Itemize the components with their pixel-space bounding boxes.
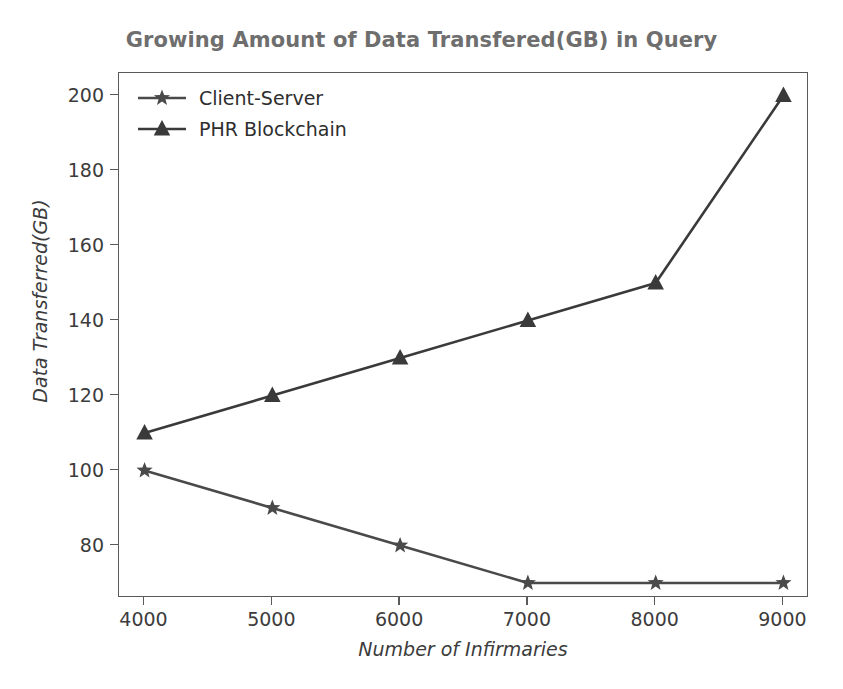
y-tick-label: 120	[44, 384, 104, 406]
legend-label: Client-Server	[188, 87, 323, 109]
data-point-marker-star	[775, 575, 791, 590]
data-point-marker-star	[264, 500, 280, 515]
legend-item-1[interactable]: Client-Server	[136, 82, 386, 113]
series-1	[136, 462, 791, 590]
data-point-marker-triangle	[775, 87, 792, 102]
x-tick-label: 7000	[482, 608, 572, 630]
y-tick-label: 160	[44, 234, 104, 256]
y-tick-label: 80	[44, 534, 104, 556]
x-axis-tick-labels: 400050006000700080009000	[118, 600, 808, 634]
y-tick-mark	[110, 319, 118, 321]
plot-area	[118, 72, 808, 597]
plot-svg	[119, 73, 809, 598]
y-axis-tick-labels: 80100120140160180200	[36, 72, 104, 597]
y-tick-mark	[110, 544, 118, 546]
y-tick-label: 140	[44, 309, 104, 331]
chart-figure: Growing Amount of Data Transfered(GB) in…	[0, 0, 843, 689]
y-tick-mark	[110, 394, 118, 396]
legend-triangle-icon	[136, 119, 188, 139]
y-tick-mark	[110, 169, 118, 171]
data-point-marker-star	[136, 462, 152, 477]
x-axis-label: Number of Infirmaries	[118, 638, 808, 660]
data-point-marker-star	[648, 575, 664, 590]
x-tick-label: 9000	[737, 608, 827, 630]
y-tick-mark	[110, 94, 118, 96]
x-tick-label: 5000	[226, 608, 316, 630]
x-tick-label: 8000	[610, 608, 700, 630]
series-line	[145, 471, 784, 584]
data-point-marker-star	[154, 89, 170, 104]
legend-item-2[interactable]: PHR Blockchain	[136, 113, 386, 144]
data-point-marker-star	[520, 575, 536, 590]
legend-star-icon	[136, 88, 188, 108]
y-tick-mark	[110, 469, 118, 471]
y-tick-label: 180	[44, 159, 104, 181]
legend-label: PHR Blockchain	[188, 118, 347, 140]
x-tick-label: 6000	[354, 608, 444, 630]
y-tick-mark	[110, 244, 118, 246]
y-tick-label: 200	[44, 84, 104, 106]
y-tick-label: 100	[44, 459, 104, 481]
chart-title: Growing Amount of Data Transfered(GB) in…	[0, 28, 843, 52]
series-line	[145, 96, 784, 434]
chart-legend: Client-ServerPHR Blockchain	[136, 82, 386, 144]
x-tick-label: 4000	[99, 608, 189, 630]
data-point-marker-star	[392, 537, 408, 552]
